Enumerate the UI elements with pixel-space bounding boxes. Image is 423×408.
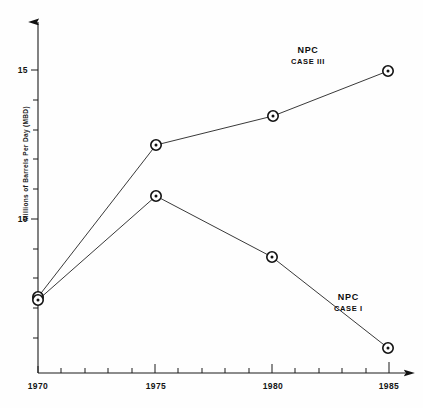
series-label-subtitle: CASE I [334, 303, 363, 314]
x-axis [38, 362, 405, 373]
data-point-marker [268, 111, 278, 121]
data-point-marker [383, 343, 393, 353]
y-axis [31, 22, 38, 373]
data-point-marker [151, 140, 161, 150]
x-tick-label-1975: 1975 [146, 381, 167, 391]
series-label-title: NPC [334, 291, 363, 303]
series-label-subtitle: CASE III [291, 56, 325, 67]
series-label-title: NPC [291, 44, 325, 56]
y-tick-label-15: 15 [6, 65, 28, 75]
x-tick-label-1985: 1985 [379, 381, 400, 391]
chart-plot-area [0, 0, 423, 408]
series-label-npc-case-1: NPC CASE I [334, 291, 363, 314]
x-tick-label-1970: 1970 [28, 381, 49, 391]
x-tick-label-1980: 1980 [263, 381, 284, 391]
data-point-marker [33, 295, 43, 305]
series-npc-case-3 [33, 66, 393, 302]
data-point-marker [151, 191, 161, 201]
data-point-marker [383, 66, 393, 76]
data-point-marker [267, 252, 277, 262]
series-label-npc-case-3: NPC CASE III [291, 44, 325, 67]
chart-container: Millions of Barrels Per Day (MBD) 15 10 … [0, 0, 423, 408]
y-axis-title: Millions of Barrels Per Day (MBD) [22, 94, 29, 234]
series-npc-case-1 [33, 191, 393, 353]
y-tick-label-10: 10 [6, 214, 28, 224]
